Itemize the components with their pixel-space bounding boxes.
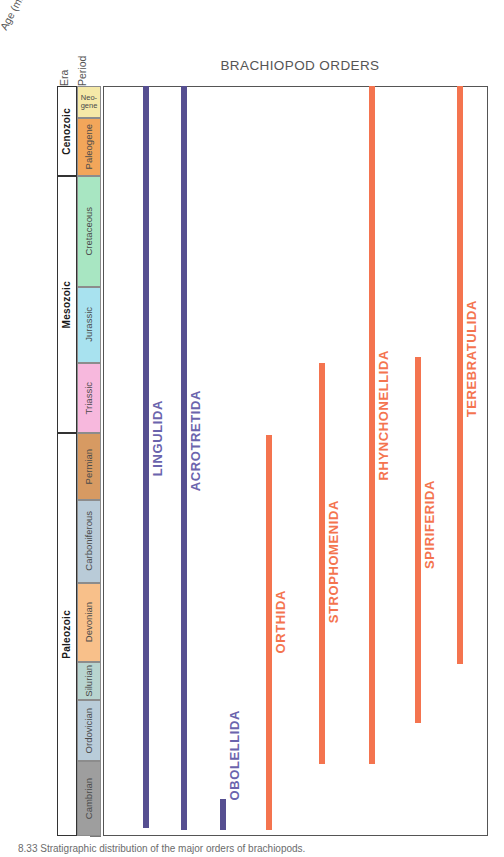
era-label: Mesozoic xyxy=(62,281,73,328)
range-bar-rhynchonellida[interactable] xyxy=(369,86,375,764)
period-block-permian: Permian xyxy=(77,433,101,499)
period-label: Neo- gene xyxy=(81,94,98,109)
period-block-cretaceous: Cretaceous xyxy=(77,176,101,287)
figure-caption: 8.33 Stratigraphic distribution of the m… xyxy=(18,843,498,854)
range-bar-label-terebratulida: TEREBRATULIDA xyxy=(464,300,479,417)
period-block-neogene: Neo- gene xyxy=(77,86,101,118)
range-bar-label-lingulida: LINGULIDA xyxy=(150,400,165,476)
period-block-jurassic: Jurassic xyxy=(77,287,101,363)
range-bar-acrotretida[interactable] xyxy=(181,86,187,830)
period-label: Paleogene xyxy=(84,124,94,169)
range-bar-strophomenida[interactable] xyxy=(319,363,325,764)
period-label: Ordovician xyxy=(84,708,94,753)
era-block-mesozoic: Mesozoic xyxy=(57,176,77,433)
period-block-cambrian: Cambrian xyxy=(77,761,101,836)
caption-text: 8.33 Stratigraphic distribution of the m… xyxy=(18,843,305,854)
era-label: Cenozoic xyxy=(62,108,73,155)
era-block-paleozoic: Paleozoic xyxy=(57,433,77,836)
period-label: Jurassic xyxy=(84,307,94,342)
period-block-silurian: Silurian xyxy=(77,662,101,701)
period-label: Carboniferous xyxy=(84,511,94,571)
range-bar-label-rhynchonellida: RHYNCHONELLIDA xyxy=(376,350,391,480)
axis-tick xyxy=(90,836,101,837)
period-block-carboniferous: Carboniferous xyxy=(77,500,101,583)
chart-title: BRACHIOPOD ORDERS xyxy=(120,58,480,73)
period-label: Cretaceous xyxy=(84,207,94,256)
period-label: Silurian xyxy=(84,665,94,697)
range-bar-terebratulida[interactable] xyxy=(457,86,463,664)
range-bar-lingulida[interactable] xyxy=(143,86,149,828)
period-label: Permian xyxy=(84,449,94,484)
range-bar-label-obolellida: OBOLELLIDA xyxy=(227,710,242,801)
range-bar-label-acrotretida: ACROTRETIDA xyxy=(188,390,203,491)
range-bar-label-strophomenida: STROPHOMENIDA xyxy=(326,500,341,623)
period-label: Cambrian xyxy=(84,778,94,819)
period-block-devonian: Devonian xyxy=(77,583,101,662)
range-bar-orthida[interactable] xyxy=(266,435,272,831)
era-block-cenozoic: Cenozoic xyxy=(57,86,77,176)
range-bar-label-spiriferida: SPIRIFERIDA xyxy=(422,480,437,569)
range-bar-label-orthida: ORTHIDA xyxy=(273,590,288,653)
figure-root: BRACHIOPOD ORDERS Age (m.y.) Era Period … xyxy=(0,0,504,857)
period-label: Devonian xyxy=(84,602,94,642)
era-label: Paleozoic xyxy=(62,610,73,659)
period-block-paleogene: Paleogene xyxy=(77,118,101,176)
period-block-ordovician: Ordovician xyxy=(77,700,101,761)
period-label: Triassic xyxy=(84,382,94,414)
range-bar-obolellida[interactable] xyxy=(220,799,226,831)
range-bar-spiriferida[interactable] xyxy=(415,357,421,722)
period-block-triassic: Triassic xyxy=(77,363,101,434)
